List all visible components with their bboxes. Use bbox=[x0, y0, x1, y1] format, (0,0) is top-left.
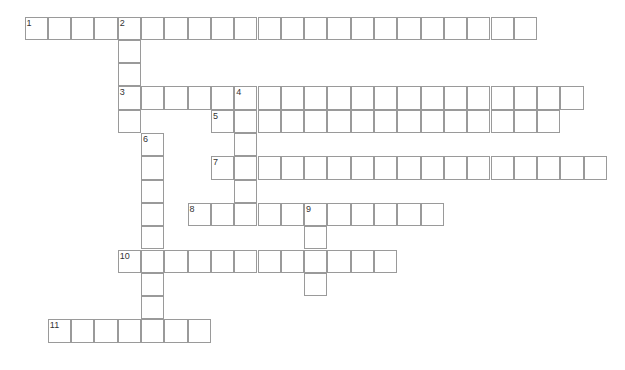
crossword-cell[interactable] bbox=[327, 203, 350, 226]
crossword-cell[interactable] bbox=[421, 86, 444, 109]
crossword-cell[interactable] bbox=[467, 86, 490, 109]
crossword-cell[interactable]: 8 bbox=[188, 203, 211, 226]
crossword-cell[interactable] bbox=[141, 180, 164, 203]
crossword-cell[interactable] bbox=[491, 156, 514, 179]
crossword-cell[interactable] bbox=[118, 63, 141, 86]
crossword-cell[interactable] bbox=[374, 156, 397, 179]
crossword-cell[interactable] bbox=[281, 203, 304, 226]
crossword-cell[interactable] bbox=[351, 17, 374, 40]
crossword-cell[interactable] bbox=[421, 110, 444, 133]
crossword-cell[interactable] bbox=[491, 110, 514, 133]
crossword-cell[interactable]: 2 bbox=[118, 17, 141, 40]
crossword-cell[interactable] bbox=[281, 110, 304, 133]
crossword-cell[interactable] bbox=[94, 17, 117, 40]
crossword-cell[interactable] bbox=[584, 156, 607, 179]
crossword-cell[interactable] bbox=[444, 17, 467, 40]
crossword-cell[interactable] bbox=[234, 110, 257, 133]
crossword-cell[interactable] bbox=[537, 86, 560, 109]
crossword-cell[interactable] bbox=[258, 203, 281, 226]
crossword-cell[interactable] bbox=[351, 156, 374, 179]
crossword-cell[interactable] bbox=[234, 17, 257, 40]
crossword-cell[interactable] bbox=[467, 156, 490, 179]
crossword-cell[interactable] bbox=[351, 86, 374, 109]
crossword-cell[interactable] bbox=[164, 250, 187, 273]
crossword-cell[interactable] bbox=[351, 110, 374, 133]
crossword-cell[interactable] bbox=[397, 17, 420, 40]
crossword-cell[interactable] bbox=[304, 250, 327, 273]
crossword-cell[interactable] bbox=[188, 17, 211, 40]
crossword-cell[interactable] bbox=[327, 156, 350, 179]
crossword-cell[interactable] bbox=[327, 250, 350, 273]
crossword-cell[interactable] bbox=[258, 156, 281, 179]
crossword-cell[interactable] bbox=[234, 180, 257, 203]
crossword-cell[interactable] bbox=[141, 250, 164, 273]
crossword-cell[interactable] bbox=[141, 319, 164, 342]
crossword-cell[interactable] bbox=[421, 17, 444, 40]
crossword-cell[interactable] bbox=[304, 156, 327, 179]
crossword-cell[interactable] bbox=[188, 86, 211, 109]
crossword-cell[interactable] bbox=[444, 86, 467, 109]
crossword-cell[interactable]: 1 bbox=[25, 17, 48, 40]
crossword-cell[interactable] bbox=[537, 156, 560, 179]
crossword-cell[interactable] bbox=[514, 86, 537, 109]
crossword-cell[interactable] bbox=[281, 250, 304, 273]
crossword-cell[interactable] bbox=[374, 110, 397, 133]
crossword-cell[interactable] bbox=[397, 110, 420, 133]
crossword-cell[interactable] bbox=[397, 156, 420, 179]
crossword-cell[interactable] bbox=[560, 86, 583, 109]
crossword-cell[interactable] bbox=[71, 319, 94, 342]
crossword-cell[interactable] bbox=[444, 156, 467, 179]
crossword-cell[interactable]: 5 bbox=[211, 110, 234, 133]
crossword-cell[interactable] bbox=[188, 250, 211, 273]
crossword-cell[interactable] bbox=[141, 226, 164, 249]
crossword-cell[interactable] bbox=[374, 250, 397, 273]
crossword-cell[interactable] bbox=[491, 86, 514, 109]
crossword-cell[interactable] bbox=[141, 86, 164, 109]
crossword-cell[interactable] bbox=[351, 203, 374, 226]
crossword-cell[interactable] bbox=[491, 17, 514, 40]
crossword-cell[interactable] bbox=[258, 17, 281, 40]
crossword-cell[interactable] bbox=[164, 17, 187, 40]
crossword-cell[interactable] bbox=[281, 86, 304, 109]
crossword-cell[interactable] bbox=[258, 110, 281, 133]
crossword-cell[interactable] bbox=[304, 110, 327, 133]
crossword-cell[interactable] bbox=[467, 110, 490, 133]
crossword-cell[interactable] bbox=[444, 110, 467, 133]
crossword-cell[interactable]: 6 bbox=[141, 133, 164, 156]
crossword-cell[interactable] bbox=[71, 17, 94, 40]
crossword-cell[interactable] bbox=[141, 296, 164, 319]
crossword-cell[interactable] bbox=[211, 86, 234, 109]
crossword-cell[interactable] bbox=[467, 17, 490, 40]
crossword-cell[interactable] bbox=[234, 250, 257, 273]
crossword-cell[interactable] bbox=[234, 156, 257, 179]
crossword-cell[interactable] bbox=[141, 156, 164, 179]
crossword-cell[interactable] bbox=[304, 273, 327, 296]
crossword-cell[interactable] bbox=[258, 86, 281, 109]
crossword-cell[interactable] bbox=[514, 17, 537, 40]
crossword-cell[interactable]: 9 bbox=[304, 203, 327, 226]
crossword-cell[interactable] bbox=[327, 110, 350, 133]
crossword-cell[interactable] bbox=[397, 203, 420, 226]
crossword-cell[interactable] bbox=[537, 110, 560, 133]
crossword-cell[interactable] bbox=[141, 17, 164, 40]
crossword-cell[interactable] bbox=[234, 203, 257, 226]
crossword-cell[interactable] bbox=[560, 156, 583, 179]
crossword-cell[interactable] bbox=[327, 17, 350, 40]
crossword-cell[interactable] bbox=[48, 17, 71, 40]
crossword-cell[interactable] bbox=[514, 110, 537, 133]
crossword-cell[interactable] bbox=[118, 319, 141, 342]
crossword-cell[interactable] bbox=[211, 17, 234, 40]
crossword-cell[interactable] bbox=[281, 17, 304, 40]
crossword-cell[interactable] bbox=[141, 273, 164, 296]
crossword-cell[interactable] bbox=[164, 86, 187, 109]
crossword-cell[interactable] bbox=[397, 86, 420, 109]
crossword-cell[interactable]: 4 bbox=[234, 86, 257, 109]
crossword-cell[interactable] bbox=[304, 17, 327, 40]
crossword-cell[interactable] bbox=[374, 86, 397, 109]
crossword-cell[interactable] bbox=[351, 250, 374, 273]
crossword-cell[interactable] bbox=[211, 250, 234, 273]
crossword-cell[interactable] bbox=[118, 40, 141, 63]
crossword-cell[interactable] bbox=[304, 86, 327, 109]
crossword-cell[interactable] bbox=[258, 250, 281, 273]
crossword-cell[interactable] bbox=[94, 319, 117, 342]
